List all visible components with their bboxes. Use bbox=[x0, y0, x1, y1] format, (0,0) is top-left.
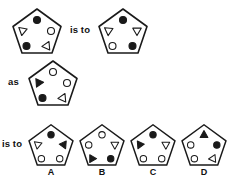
option-c-figure bbox=[128, 122, 178, 166]
premise-figure-1-cell bbox=[10, 6, 64, 54]
analog-row: as bbox=[8, 58, 80, 106]
option-a-figure bbox=[26, 122, 76, 166]
premise-figure-1 bbox=[10, 6, 64, 54]
premise-figure-2 bbox=[96, 6, 150, 54]
option-d-label: D bbox=[179, 168, 229, 177]
connector-is-to-1: is to bbox=[70, 25, 90, 35]
analog-figure-cell bbox=[26, 58, 80, 106]
option-b-label: B bbox=[77, 168, 127, 177]
puzzle-canvas: is to as is to A B C D bbox=[0, 0, 230, 192]
option-a-label: A bbox=[26, 168, 76, 177]
option-c[interactable]: C bbox=[128, 122, 178, 166]
premise-row: is to bbox=[10, 6, 150, 54]
answers-row: is to A B C D bbox=[2, 122, 230, 166]
analog-figure bbox=[26, 58, 80, 106]
premise-figure-2-cell bbox=[96, 6, 150, 54]
option-d[interactable]: D bbox=[179, 122, 229, 166]
option-a[interactable]: A bbox=[26, 122, 76, 166]
option-c-label: C bbox=[128, 168, 178, 177]
option-b-figure bbox=[77, 122, 127, 166]
connector-as: as bbox=[8, 77, 19, 87]
option-d-figure bbox=[179, 122, 229, 166]
connector-is-to-2: is to bbox=[2, 139, 22, 149]
option-b[interactable]: B bbox=[77, 122, 127, 166]
